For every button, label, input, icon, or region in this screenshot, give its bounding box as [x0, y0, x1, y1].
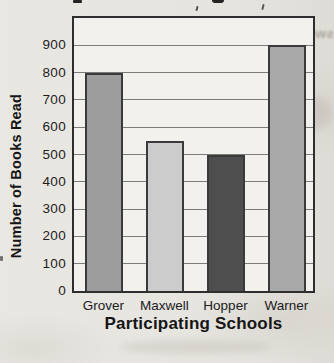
y-tick-label-100: 100 [0, 256, 66, 272]
scan-speck [261, 4, 264, 10]
y-tick-label-800: 800 [0, 65, 66, 81]
plot-area [72, 16, 315, 293]
scan-speck [195, 6, 198, 11]
y-tick-label-400: 400 [0, 174, 66, 190]
y-tick-label-900: 900 [0, 37, 66, 53]
scanned-page: swer each question Number of Books Read … [0, 0, 334, 363]
cropped-title-fragment [212, 0, 224, 3]
bleed-through-smudge [120, 340, 270, 354]
bar-maxwell [146, 141, 184, 291]
y-tick-label-700: 700 [0, 92, 66, 108]
x-category-label-warner: Warner [249, 298, 325, 314]
cropped-title-fragment [73, 0, 82, 3]
y-tick-label-600: 600 [0, 119, 66, 135]
x-axis-title: Participating Schools [72, 314, 315, 336]
y-tick-label-300: 300 [0, 201, 66, 217]
bar-grover [85, 73, 123, 291]
y-tick-label-0: 0 [0, 283, 66, 299]
bar-warner [268, 45, 306, 291]
y-tick-label-500: 500 [0, 147, 66, 163]
bar-hopper [207, 155, 245, 292]
y-axis-tick-labels: 9008007006005004003002001000 [0, 16, 66, 293]
x-axis-category-labels: GroverMaxwellHopperWarner [0, 298, 334, 314]
y-tick-label-200: 200 [0, 228, 66, 244]
